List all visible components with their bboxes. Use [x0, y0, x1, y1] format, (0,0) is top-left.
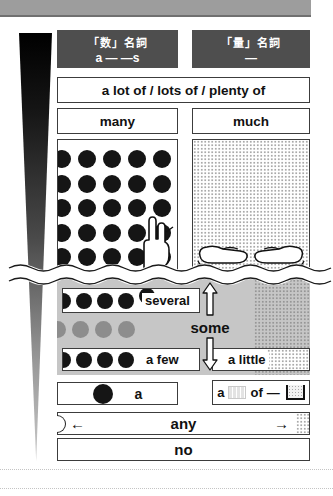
a-few-box: a few [62, 348, 200, 371]
a-little-box: a little [212, 348, 310, 371]
dot [78, 150, 96, 168]
label-much: much [192, 108, 310, 134]
dot [78, 224, 96, 242]
header-uncountable-title: 「量」名詞 [192, 34, 310, 50]
a-box: a [57, 382, 178, 405]
header-uncountable-pattern: ― [192, 51, 310, 65]
down-arrow-icon [202, 337, 218, 371]
dot [95, 321, 112, 338]
label-a-lot-of: a lot of / lots of / plenty of [57, 77, 310, 103]
dot [128, 150, 146, 168]
dot [103, 150, 121, 168]
dot [103, 199, 121, 217]
unit-of-text: of [250, 385, 262, 400]
wave-break [6, 261, 333, 289]
several-label: several [142, 293, 193, 308]
dot [62, 293, 71, 309]
page-rule-line [0, 469, 333, 470]
page-top-band [0, 0, 311, 17]
page-rule-line [0, 488, 333, 489]
a-little-stipple-texture [267, 349, 309, 370]
dot [103, 224, 121, 242]
dot [72, 321, 89, 338]
dot [118, 352, 134, 368]
dot [62, 352, 71, 368]
any-stipple-texture [296, 413, 309, 434]
some-zone: several a few a little some [57, 279, 310, 375]
some-label: some [184, 319, 236, 336]
any-box: ← any → [57, 412, 310, 435]
much-text: much [233, 114, 269, 129]
dot [118, 321, 135, 338]
countable-picture-box [57, 139, 178, 272]
dot [97, 352, 113, 368]
quantifier-diagram: 「数」名詞 a ― ―s 「量」名詞 ― a lot of / lots of … [0, 0, 333, 496]
a-few-dots [62, 352, 134, 368]
label-many: many [57, 108, 178, 134]
dot [153, 150, 171, 168]
measuring-cup-icon [286, 385, 305, 400]
dot [153, 175, 171, 193]
gray-dot-row [57, 321, 135, 338]
dot [57, 224, 71, 242]
quantity-gradient-wedge [19, 33, 52, 461]
many-text: many [100, 114, 135, 129]
dot [57, 150, 71, 168]
header-countable-pattern: a ― ―s [57, 51, 178, 65]
right-arrow-icon: → [274, 414, 289, 431]
dot [78, 175, 96, 193]
dot [118, 293, 134, 309]
header-countable-title: 「数」名詞 [57, 34, 178, 50]
no-box: no [57, 438, 310, 461]
unit-dash: ― [267, 385, 280, 400]
dot [97, 293, 113, 309]
header-countable: 「数」名詞 a ― ―s [57, 30, 178, 68]
a-few-label: a few [143, 352, 182, 367]
a-label: a [135, 386, 143, 402]
half-dot-icon [57, 415, 66, 433]
left-arrow-icon: ← [70, 414, 85, 431]
dot [57, 199, 71, 217]
several-dots [62, 293, 134, 309]
dot [57, 175, 71, 193]
no-label: no [174, 441, 192, 458]
dot [57, 321, 66, 338]
a-lot-of-text: a lot of / lots of / plenty of [102, 83, 266, 98]
header-uncountable: 「量」名詞 ― [192, 30, 310, 68]
dot [103, 175, 121, 193]
a-little-label: a little [225, 352, 269, 367]
several-box: several [62, 288, 200, 313]
any-label: any [171, 415, 197, 432]
uncountable-picture-box [192, 139, 310, 272]
unit-a-text: a [217, 385, 224, 400]
a-unit-of-box: a of ― [212, 380, 310, 405]
dot [76, 293, 92, 309]
single-dot [93, 384, 113, 404]
dot [128, 175, 146, 193]
unit-box-icon [228, 386, 246, 399]
dot [76, 352, 92, 368]
dot [78, 199, 96, 217]
